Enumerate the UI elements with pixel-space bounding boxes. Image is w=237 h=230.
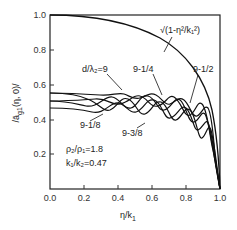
envelope-label: √(1-η²/k₁²) — [160, 25, 200, 35]
x-tick-label: 0.8 — [180, 193, 193, 203]
n12-leader — [190, 75, 198, 103]
y-tick-label: 0.4 — [33, 115, 46, 125]
y-tick-label: 0.6 — [33, 80, 46, 90]
x-tick-label: 1.0 — [214, 193, 227, 203]
y-tick-label: 0.2 — [33, 149, 46, 159]
curve-9-3-8 — [50, 93, 220, 189]
n12-label: 9-1/2 — [193, 64, 214, 74]
n14-label: 9-1/4 — [133, 64, 154, 74]
chart: 1.0 0.8 0.6 0.4 0.2 0.0 0.2 0.4 0.6 0.8 … — [0, 0, 237, 230]
curves — [50, 93, 220, 189]
x-tick-label: 0.6 — [146, 193, 159, 203]
d9-leader — [107, 74, 122, 90]
curve-9-1-2 — [50, 93, 220, 189]
density-ratio-label: ρ₂/ρ₁=1.8 — [66, 144, 103, 154]
y-tick-label: 1.0 — [33, 10, 46, 20]
d9-label: d/λ₂=9 — [82, 64, 108, 74]
x-axis — [84, 185, 186, 189]
y-tick-label: 0.8 — [33, 45, 46, 55]
x-axis-label: η/k1 — [120, 210, 136, 222]
x-tick-label: 0.2 — [78, 193, 91, 203]
x-tick-label: 0.4 — [112, 193, 125, 203]
n18-label: 9-1/8 — [80, 120, 101, 130]
n14-leader — [153, 74, 162, 95]
y-axis-label: /āg1(η, 0)/ — [11, 83, 24, 122]
k-ratio-label: k₁/k₂=0.47 — [66, 158, 107, 168]
x-tick-label: 0.0 — [44, 193, 57, 203]
n38-label: 9-3/8 — [122, 128, 143, 138]
